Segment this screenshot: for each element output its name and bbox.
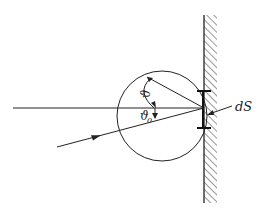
incident-ray: [57, 108, 204, 147]
angle-theta0-arc: [152, 108, 158, 119]
radius-line: [147, 77, 204, 108]
label-theta: ϑ: [139, 89, 153, 98]
diagram-canvas: ϑ ϑ 0 dS: [0, 0, 259, 213]
arrow-icon: [91, 135, 101, 140]
label-theta0-subscript: 0: [147, 116, 152, 125]
scattering-sphere: [117, 71, 207, 161]
label-ds: dS: [235, 99, 252, 114]
arrowhead-icon: [152, 113, 158, 119]
